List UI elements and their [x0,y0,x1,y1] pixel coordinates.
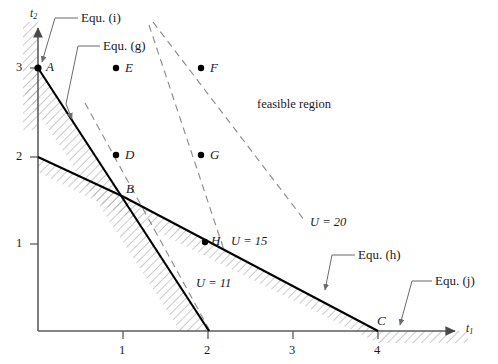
feasible-region-annotation: feasible region [257,98,331,111]
x-tick-3: 3 [289,344,295,357]
constraint-label-equ-i: Equ. (i) [81,11,121,24]
indifference-label-u15: U = 15 [231,235,267,248]
vertex-label-A: A [46,60,54,73]
point-dot-A [34,64,41,71]
x-tick-4: 4 [374,344,380,357]
vertex-label-B: B [126,182,134,195]
point-dot-F [198,65,204,71]
indifference-curve-u20 [153,22,305,221]
y-tick-3: 3 [16,61,22,74]
indifference-label-u11: U = 11 [196,277,231,290]
point-label-D: D [125,148,134,161]
point-dot-G [198,152,204,158]
point-label-H: H [211,234,220,247]
leader-line-equ-h [325,255,355,290]
x-axis-label: t1 [466,323,473,336]
hatch-band-equ-h [38,157,378,343]
constraint-label-equ-j: Equ. (j) [435,274,475,287]
constraint-line-equ-i [38,68,209,331]
lp-feasible-region-figure [0,0,498,364]
hatch-band-x-axis [378,331,468,343]
point-label-E: E [125,61,133,74]
point-dot-D [113,152,119,158]
x-tick-2: 2 [204,344,210,357]
indifference-label-u20: U = 20 [310,216,346,229]
y-axis-label: t2 [30,8,37,21]
point-label-F: F [210,61,218,74]
point-label-G: G [210,148,219,161]
constraint-label-equ-h: Equ. (h) [358,248,401,261]
point-dot-H [202,239,208,245]
constraint-label-equ-g: Equ. (g) [103,39,146,52]
leader-line-equ-g [66,46,100,119]
leader-line-equ-j [400,281,432,325]
leader-line-equ-i [42,18,78,62]
y-tick-1: 1 [16,237,22,250]
y-tick-2: 2 [16,150,22,163]
vertex-label-C: C [377,314,386,327]
x-tick-1: 1 [119,344,125,357]
point-dot-E [113,65,119,71]
